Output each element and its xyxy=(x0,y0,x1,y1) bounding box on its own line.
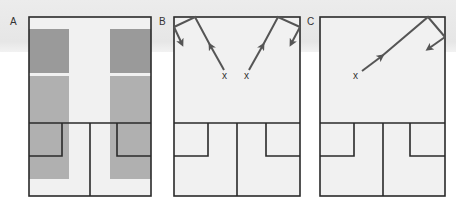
shaded-zone xyxy=(110,76,151,179)
shaded-zone xyxy=(110,29,151,73)
panel-c xyxy=(320,17,445,196)
shaded-zone xyxy=(29,29,69,73)
start-marker: x xyxy=(222,70,227,81)
panel-b xyxy=(174,17,300,196)
start-marker: x xyxy=(244,70,249,81)
shaded-zone xyxy=(29,76,69,179)
diagram-canvas xyxy=(0,0,456,211)
panel-a xyxy=(29,17,151,196)
start-marker: x xyxy=(353,70,358,81)
